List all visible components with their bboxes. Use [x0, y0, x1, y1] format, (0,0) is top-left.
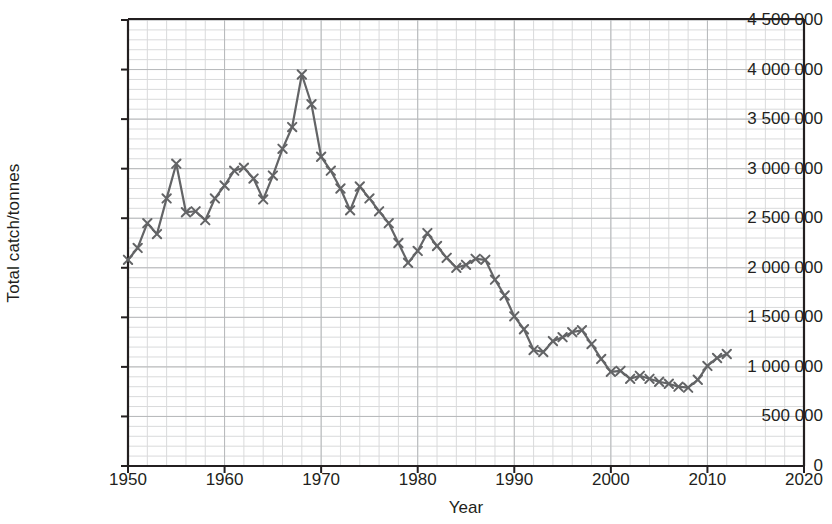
y-axis-tick-label: 2 000 000 [714, 258, 832, 278]
x-axis-tick-label: 2000 [592, 470, 630, 490]
y-axis-tick-label: 3 000 000 [714, 159, 832, 179]
x-axis-tick-label: 1970 [302, 470, 340, 490]
y-axis-tick-label: 500 000 [714, 406, 832, 426]
y-axis-tick-label: 1 000 000 [714, 357, 832, 377]
x-axis-label: Year [128, 498, 804, 518]
x-axis-tick-label: 2010 [689, 470, 727, 490]
chart-figure: Total catch/tonnes 0500 0001 000 0001 50… [0, 0, 832, 524]
x-axis-tick-label: 2020 [785, 470, 823, 490]
x-axis-tick-label: 1960 [206, 470, 244, 490]
y-axis-tick-label: 2 500 000 [714, 208, 832, 228]
axis-tick-labels: 0500 0001 000 0001 500 0002 000 0002 500… [0, 0, 832, 524]
y-axis-tick-label: 4 000 000 [714, 60, 832, 80]
y-axis-tick-label: 3 500 000 [714, 109, 832, 129]
x-axis-tick-label: 1990 [495, 470, 533, 490]
y-axis-tick-label: 1 500 000 [714, 307, 832, 327]
x-axis-tick-label: 1950 [109, 470, 147, 490]
y-axis-tick-label: 4 500 000 [714, 10, 832, 30]
x-axis-tick-label: 1980 [399, 470, 437, 490]
